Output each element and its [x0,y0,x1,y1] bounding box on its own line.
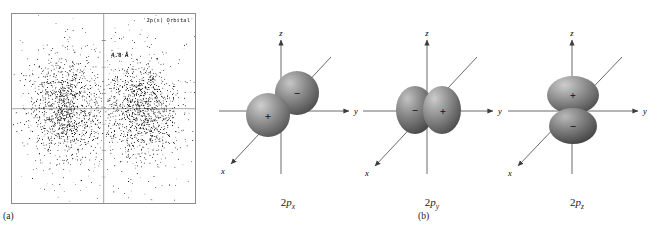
orbital-label-2py-sub: y [436,202,439,211]
orbital-label-2pz-sub: z [581,202,584,211]
panel-a-caption: (a) [3,211,14,221]
sign-positive-2py: + [440,105,446,117]
orbital-label-2px: 2px [213,196,363,211]
sign-negative-2pz: − [570,120,576,132]
orbital-diagram-2py: − + z y x 2py [357,14,507,224]
orbital-label-2pz: 2pz [502,196,652,211]
figure-2p-orbitals: 2p(x) Orbital 4.8 Å (a) [0,0,660,236]
axis-label-z: z [424,28,429,38]
axis-label-z: z [569,28,574,38]
panel-a-dot-plot: 2p(x) Orbital 4.8 Å (a) [0,0,205,236]
axis-label-y: y [642,106,647,116]
sign-negative-2py: − [412,104,418,116]
sign-positive-2pz: + [570,89,576,101]
axis-label-x: x [507,168,512,178]
panel-b-orbital-diagrams: − + z y x 2px [205,0,660,236]
scatter-plot-frame: 2p(x) Orbital 4.8 Å [11,13,196,204]
distance-annotation-label: 4.8 Å [111,52,128,58]
orbital-label-2px-sub: x [292,202,295,211]
orbital-2px-svg: − + z y x [213,14,363,199]
orbital-2pz-svg: + − z y x [502,14,652,199]
axis-label-x: x [220,166,225,176]
orbital-diagram-2px: − + z y x 2px [213,14,363,224]
sign-positive-2px: + [265,110,271,122]
orbital-label-2py: 2py [357,196,507,211]
panel-b-caption: (b) [418,211,429,221]
sign-negative-2px: − [294,87,300,99]
orbital-2py-svg: − + z y x [357,14,507,199]
orbital-type-label: 2p(x) Orbital [147,17,191,23]
axis-label-x: x [364,168,369,178]
orbital-diagram-2pz: + − z y x 2pz [502,14,652,224]
electron-density-scatter [12,14,195,203]
axis-label-z: z [278,28,283,38]
